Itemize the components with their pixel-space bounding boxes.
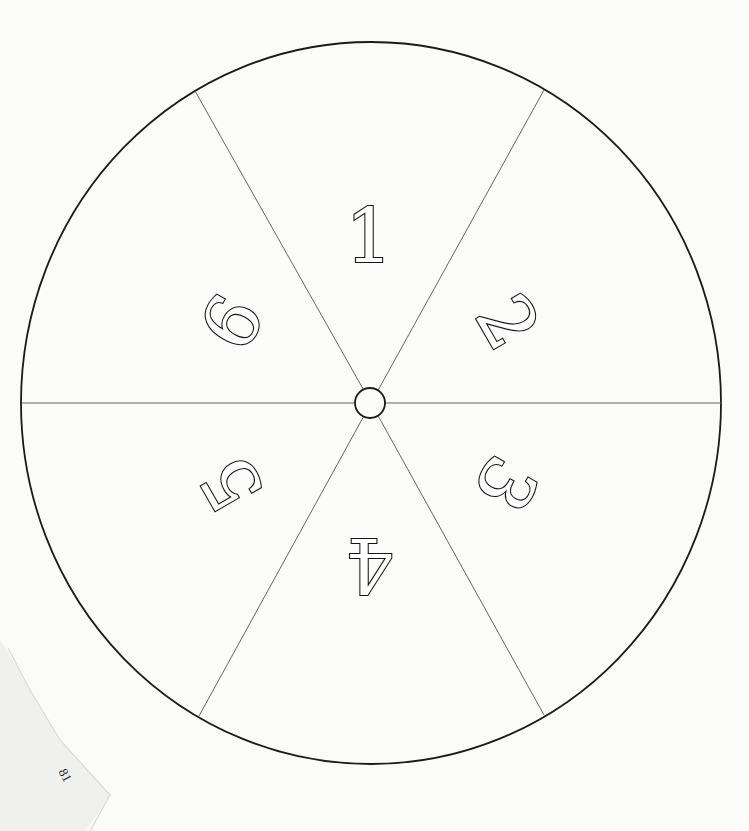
sector-5-label: 5 — [183, 442, 281, 526]
sector-2-label: 2 — [459, 280, 557, 364]
svg-text:3: 3 — [457, 442, 555, 526]
sector-6-label: 6 — [183, 280, 281, 364]
center-hub — [355, 388, 385, 418]
svg-text:5: 5 — [183, 442, 281, 526]
svg-text:4: 4 — [346, 522, 393, 608]
sector-4-label: 4 — [346, 522, 393, 608]
svg-text:2: 2 — [459, 280, 557, 364]
sector-3-label: 3 — [457, 442, 555, 526]
svg-text:1: 1 — [345, 193, 392, 279]
scanned-page: 81 1 2 3 4 5 6 — [0, 0, 749, 831]
sector-1-label: 1 — [345, 193, 392, 279]
spinner-wheel: 1 2 3 4 5 6 — [0, 0, 749, 831]
svg-text:6: 6 — [183, 280, 281, 364]
